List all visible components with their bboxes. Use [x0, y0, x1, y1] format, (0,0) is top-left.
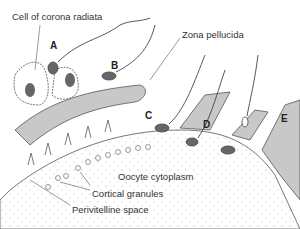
stage-label-c: C — [145, 110, 152, 121]
label-cortical-granules: Cortical granules — [92, 188, 163, 199]
label-zona-pellucida: Zona pellucida — [182, 29, 244, 40]
stage-label-b: B — [111, 60, 118, 71]
fertilization-diagram: Cell of corona radiata Zona pellucida Oo… — [0, 0, 300, 229]
zona-pellucida-band-2 — [232, 110, 268, 140]
label-perivitelline-space: Perivitelline space — [72, 204, 149, 215]
stage-label-e: E — [281, 113, 288, 124]
stage-label-a: A — [50, 40, 57, 51]
stage-label-d: D — [203, 119, 210, 130]
label-oocyte-cytoplasm: Oocyte cytoplasm — [118, 171, 194, 182]
label-corona-radiata: Cell of corona radiata — [12, 11, 102, 22]
